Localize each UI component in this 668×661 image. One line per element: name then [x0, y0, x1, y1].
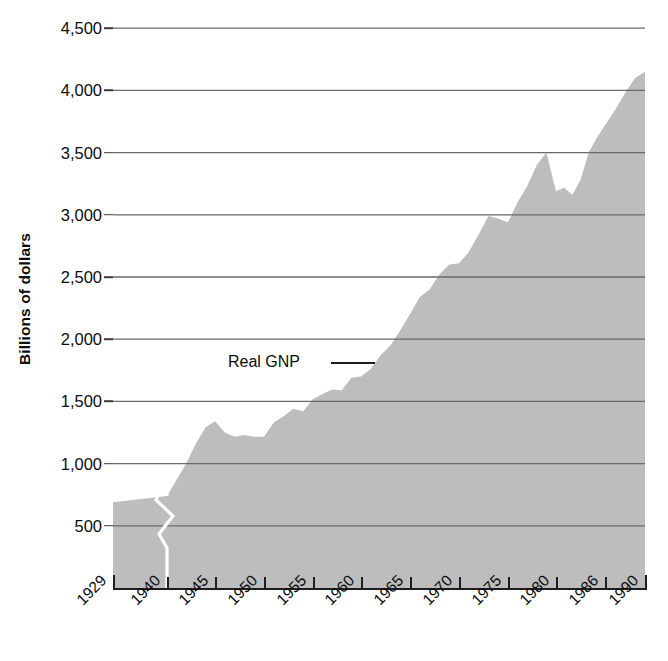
y-axis-tick-label: 2,500: [30, 268, 102, 287]
y-axis-tick-mark: [104, 152, 113, 154]
y-axis-tick-mark: [104, 27, 113, 29]
x-axis-tick-mark: [313, 577, 315, 590]
y-axis-tick-mark: [104, 338, 113, 340]
real-gnp-leader-line: [331, 362, 375, 364]
area-fill-group: [113, 72, 645, 588]
x-axis-tick-mark: [264, 577, 266, 590]
chart-container: Billions of dollars 4,5004,0003,5003,000…: [0, 0, 668, 661]
y-axis-tick-mark: [104, 276, 113, 278]
y-axis-tick-mark: [104, 463, 113, 465]
x-axis-tick-mark: [215, 577, 217, 590]
y-axis-tick-mark: [104, 525, 113, 527]
y-axis-tick-labels: 4,5004,0003,5003,0002,5002,0001,5001,000…: [30, 0, 102, 661]
y-axis-tick-label: 3,000: [30, 205, 102, 224]
x-axis-tick-mark: [508, 577, 510, 590]
y-axis-tick-label: 4,500: [30, 19, 102, 38]
y-axis-tick-label: 500: [30, 516, 102, 535]
x-axis-tick-mark: [167, 577, 169, 590]
area-fill-path: [113, 72, 645, 588]
x-axis-tick-mark: [113, 575, 115, 590]
y-axis-tick-mark: [104, 401, 113, 403]
y-axis-tick-mark: [104, 90, 113, 92]
y-axis-tick-label: 1,000: [30, 454, 102, 473]
plot-area: [113, 0, 645, 588]
x-axis-tick-mark: [645, 575, 647, 590]
y-axis-tick-label: 3,500: [30, 143, 102, 162]
y-axis-tick-label: 4,000: [30, 81, 102, 100]
real-gnp-annotation-label: Real GNP: [228, 353, 300, 371]
x-axis-tick-mark: [605, 577, 607, 590]
real-gnp-area-series: [113, 0, 645, 588]
y-axis-tick-label: 2,000: [30, 330, 102, 349]
x-axis-tick-mark: [410, 577, 412, 590]
x-axis-tick-mark: [361, 577, 363, 590]
x-axis-tick-mark: [556, 577, 558, 590]
y-axis-tick-mark: [104, 214, 113, 216]
y-axis-tick-label: 1,500: [30, 392, 102, 411]
x-axis-tick-mark: [459, 577, 461, 590]
